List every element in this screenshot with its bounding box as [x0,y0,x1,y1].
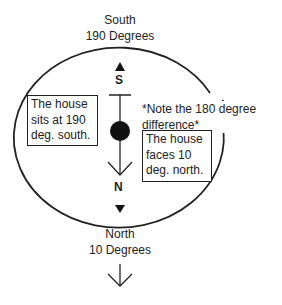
compass-diagram [0,0,282,305]
triangle-down-icon [115,205,125,213]
top-label: South 190 Degrees [80,12,160,44]
south-letter: S [115,73,123,87]
left-box: The house sits at 190 deg. south. [27,95,98,146]
north-letter: N [114,180,123,194]
bottom-label: North 10 Degrees [75,226,165,258]
triangle-up-icon [115,62,125,71]
house-dot [110,121,130,141]
note-text: *Note the 180 degree difference* [142,101,256,133]
right-box: The house faces 10 deg. north. [142,130,212,182]
